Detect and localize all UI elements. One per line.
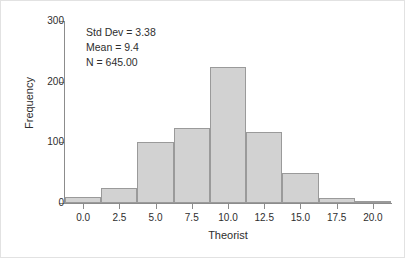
x-tick-mark xyxy=(228,204,229,209)
y-axis-title: Frequency xyxy=(23,43,35,163)
n-label: N = 645.00 xyxy=(86,55,156,70)
x-axis-title: Theorist xyxy=(65,229,391,241)
histogram-bar xyxy=(246,132,282,203)
x-tick-label: 17.5 xyxy=(317,212,357,223)
x-tick-mark xyxy=(156,204,157,209)
x-tick-label: 2.5 xyxy=(99,212,139,223)
x-tick-mark xyxy=(83,204,84,209)
x-tick-mark xyxy=(373,204,374,209)
mean-label: Mean = 9.4 xyxy=(86,40,156,55)
std-dev-label: Std Dev = 3.38 xyxy=(86,25,156,40)
x-tick-mark xyxy=(300,204,301,209)
histogram-bar xyxy=(210,67,246,203)
histogram-bar xyxy=(355,201,391,203)
histogram-bar xyxy=(101,188,137,203)
x-tick-label: 7.5 xyxy=(172,212,212,223)
x-tick-mark xyxy=(119,204,120,209)
stats-annotation: Std Dev = 3.38 Mean = 9.4 N = 645.00 xyxy=(86,25,156,70)
histogram-bar xyxy=(174,128,210,203)
x-tick-label: 0.0 xyxy=(63,212,103,223)
x-tick-label: 20.0 xyxy=(353,212,393,223)
histogram-bar xyxy=(282,173,318,203)
x-tick-label: 12.5 xyxy=(244,212,284,223)
histogram-figure: 0100200300 0.02.55.07.510.012.515.017.52… xyxy=(0,0,405,258)
x-tick-mark xyxy=(192,204,193,209)
histogram-bar xyxy=(319,198,355,203)
x-tick-label: 15.0 xyxy=(280,212,320,223)
x-tick-label: 5.0 xyxy=(136,212,176,223)
histogram-bar xyxy=(137,142,173,203)
y-tick-label: 300 xyxy=(18,16,64,26)
x-tick-mark xyxy=(264,204,265,209)
x-tick-label: 10.0 xyxy=(208,212,248,223)
histogram-bar xyxy=(65,197,101,203)
y-tick-label: 0 xyxy=(18,198,64,208)
x-tick-mark xyxy=(337,204,338,209)
